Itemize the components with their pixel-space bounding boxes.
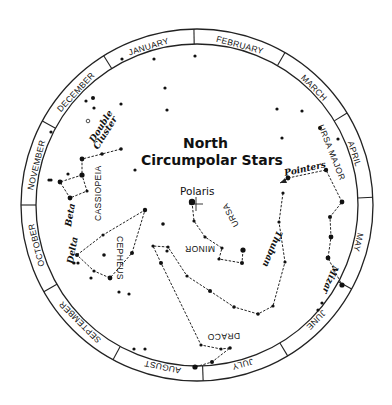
month-label-august: AUGUST [143,358,181,376]
inner-ring [36,44,358,366]
stars [47,54,344,369]
cassiopeia-label: CASSIOPEIA [93,166,103,222]
star-icon [91,96,95,100]
star-icon [208,289,212,293]
pointers-label: Pointers [282,159,326,178]
beta-label: Beta [63,202,77,228]
star-icon [280,136,283,139]
star-icon [240,261,244,265]
star-icon [85,189,88,192]
star-icon [100,152,104,156]
star-icon [92,106,95,109]
star-icon [283,260,286,263]
star-icon [101,233,104,236]
month-divider [44,284,57,291]
month-divider [278,53,286,66]
month-label-january: JANUARY [127,36,170,58]
mizar-label: Mizar [320,263,341,296]
month-label-october: OCTOBER [26,223,46,268]
title-line-1: North [183,135,228,151]
star-icon [232,305,236,309]
star-icon [217,257,220,260]
star-icon [210,360,214,364]
star-icon [133,168,136,171]
star-icon [192,364,197,369]
month-divider [280,343,288,356]
cepheus-lines [77,210,145,278]
month-divider [358,197,373,198]
star-icon [119,147,123,151]
star-chart: JANUARYFEBRUARYMARCHAPRILMAYJUNEJULYAUGU… [0,0,392,405]
draco-label: DRACO [207,331,240,342]
star-icon [340,200,345,205]
star-icon [193,54,196,57]
star-icon [102,253,106,257]
month-divider [42,121,55,128]
star-icon [89,276,92,279]
month-label-november: NOVEMBER [25,139,47,191]
star-icon [92,269,95,272]
month-label-april: APRIL [346,140,364,168]
star-icon [120,57,123,60]
star-icon [143,347,146,350]
star-icon [108,276,113,281]
star-icon [161,222,165,226]
star-icon [203,235,206,238]
month-divider [113,346,120,359]
month-label-june: JUNE [304,308,327,332]
cepheus-label: CEPHEUS [115,236,125,280]
star-icon [117,290,120,293]
star-icon [165,249,168,252]
star-icon [199,343,202,346]
month-divider [334,113,347,121]
month-divider [104,56,112,69]
star-icon [275,107,278,110]
star-icon [281,191,284,194]
star-icon [192,219,195,222]
polaris-label: Polaris [180,185,214,197]
star-icon [329,235,334,240]
star-icon [240,247,245,252]
star-icon [320,301,323,304]
star-icon [185,274,188,277]
star-icon [143,208,147,212]
star-icon [130,251,134,255]
star-icon [166,245,169,248]
star-icon [316,308,319,311]
star-icon [47,178,50,181]
star-icon [79,172,84,177]
thuban-label: Thuban [261,229,285,268]
star-icon [219,347,222,350]
star-icon [300,109,303,112]
star-icon [271,304,274,307]
star-icon [152,57,155,60]
ursa-major-label: URSA MAJOR [316,123,347,182]
star-icon [256,312,260,316]
star-icon [68,196,73,201]
title-line-2: Circumpolar Stars [141,152,283,168]
ursa-minor-label-1: URSA [220,202,241,229]
star-icon [66,172,69,175]
star-icon [163,86,166,89]
month-label-may: MAY [352,232,366,252]
star-icon [328,215,332,219]
double-cluster-icon [86,119,90,123]
star-icon [76,261,79,264]
star-icon [132,347,135,350]
star-icon [189,199,195,205]
star-icon [127,292,130,295]
star-icon [159,261,163,265]
star-icon [277,220,280,223]
month-label-september: SEPTEMBER [57,299,103,345]
month-label-february: FEBRUARY [215,34,264,56]
star-icon [49,130,52,133]
delta-label: Delta [65,236,80,265]
star-icon [58,180,63,185]
star-icon [228,346,232,350]
star-icon [220,246,223,249]
star-icon [80,157,85,162]
star-icon [326,256,331,261]
star-icon [119,102,122,105]
star-icon [339,282,344,287]
month-label-march: MARCH [299,73,329,103]
